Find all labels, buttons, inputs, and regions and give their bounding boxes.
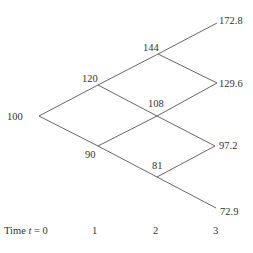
time-axis-label: Time t = 0 <box>4 225 48 236</box>
node-value: 81 <box>152 160 163 171</box>
node-value: 120 <box>82 73 98 84</box>
node-value: 172.8 <box>219 15 243 26</box>
node-value: 100 <box>7 111 23 122</box>
time-tick-3: 3 <box>213 225 218 236</box>
node-value: 72.9 <box>220 206 238 217</box>
tree-edge <box>39 85 98 116</box>
tree-edge <box>98 54 158 85</box>
tree-edge <box>158 23 217 54</box>
tree-edge <box>98 146 157 177</box>
tree-edge <box>157 116 215 146</box>
tree-edge <box>39 116 98 146</box>
time-tick-2: 2 <box>153 225 158 236</box>
time-tick-1: 1 <box>92 225 97 236</box>
node-labels: 1001209014410881172.8129.697.272.9 <box>7 15 243 217</box>
tree-edge <box>157 177 216 208</box>
time-axis: Time t = 0 1 2 3 <box>4 225 218 236</box>
node-value: 97.2 <box>219 140 237 151</box>
binomial-tree-diagram: 1001209014410881172.8129.697.272.9 Time … <box>0 0 253 253</box>
tree-edge <box>157 146 215 177</box>
node-value: 108 <box>148 98 164 109</box>
tree-edge <box>158 54 217 83</box>
node-value: 90 <box>85 149 96 160</box>
tree-edge <box>98 116 157 146</box>
tree-edge <box>157 83 217 116</box>
tree-edges <box>39 23 217 208</box>
node-value: 129.6 <box>219 78 243 89</box>
node-value: 144 <box>143 42 160 53</box>
